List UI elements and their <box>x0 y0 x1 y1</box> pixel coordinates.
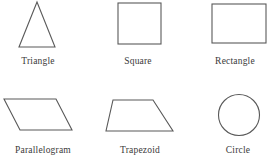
shape-label-rectangle: Rectangle <box>202 56 268 66</box>
shape-parallelogram <box>0 93 80 138</box>
circle-icon <box>214 91 264 141</box>
shape-label-trapezoid: Trapezoid <box>105 145 175 155</box>
shape-square <box>114 0 166 50</box>
shape-rectangle <box>206 0 268 50</box>
shape-trapezoid <box>100 93 180 138</box>
triangle-icon <box>14 0 62 52</box>
rectangle-icon <box>206 0 268 50</box>
shape-label-square: Square <box>102 56 174 66</box>
square-icon <box>114 0 166 50</box>
shapes-diagram-page: Triangle Square Rectangle Parallelogram … <box>0 0 268 167</box>
shape-label-circle: Circle <box>208 145 268 155</box>
shape-label-parallelogram: Parallelogram <box>4 145 82 155</box>
shape-triangle <box>14 0 62 52</box>
parallelogram-icon <box>0 93 80 138</box>
shape-label-triangle: Triangle <box>0 56 76 66</box>
trapezoid-icon <box>100 93 180 138</box>
shape-circle <box>214 91 264 141</box>
